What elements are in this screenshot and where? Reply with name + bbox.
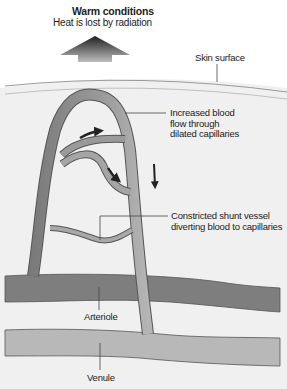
label-shunt-vessel: Constricted shunt vessel diverting blood… (171, 211, 282, 232)
label-line: diverting blood to capillaries (171, 222, 282, 233)
label-line: Increased blood (170, 108, 239, 119)
label-line: Constricted shunt vessel (171, 211, 282, 222)
flow-arrow-icon (154, 164, 155, 186)
label-venule: Venule (87, 373, 115, 384)
label-increased-flow: Increased blood flow through dilated cap… (170, 108, 239, 140)
diagram-title: Warm conditions (72, 6, 154, 17)
heat-up-arrow-icon (60, 36, 130, 62)
label-line: dilated capillaries (170, 129, 239, 140)
diagram-subtitle: Heat is lost by radiation (53, 18, 152, 29)
thermoregulation-diagram: Warm conditions Heat is lost by radiatio… (0, 0, 287, 389)
label-skin-surface: Skin surface (195, 53, 245, 64)
label-arteriole: Arteriole (84, 312, 118, 323)
